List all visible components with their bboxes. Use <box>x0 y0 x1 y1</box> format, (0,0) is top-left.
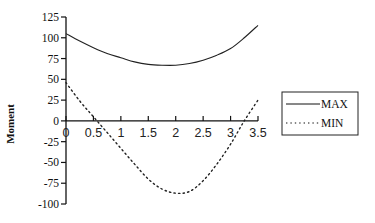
y-tick-label: 50 <box>48 73 60 85</box>
y-tick-label: 125 <box>42 11 60 23</box>
y-tick-label: -100 <box>38 198 59 210</box>
x-tick-label: 2.5 <box>194 126 211 140</box>
x-tick-label: 2 <box>172 126 179 140</box>
legend: MAX MIN <box>282 92 358 135</box>
y-tick-label: 75 <box>48 53 60 65</box>
x-tick-label: 3.5 <box>249 126 266 140</box>
x-tick-label: 0 <box>63 126 70 140</box>
moment-chart: Moment 1251007550250-25-50-75-100 00.511… <box>0 0 375 223</box>
y-tick-label: -25 <box>44 136 60 148</box>
x-tick-label: 1.5 <box>140 126 157 140</box>
y-axis-ticks: 1251007550250-25-50-75-100 <box>38 11 66 210</box>
y-axis-title: Moment <box>4 104 16 144</box>
max-series-line <box>66 25 258 65</box>
svg-text:Moment: Moment <box>4 104 16 144</box>
x-tick-label: 1 <box>117 126 124 140</box>
y-tick-label: 25 <box>48 94 60 106</box>
x-tick-label: 3 <box>227 126 234 140</box>
x-tick-label: 0.5 <box>85 126 102 140</box>
plot-series <box>66 25 258 193</box>
y-tick-label: 0 <box>53 115 59 127</box>
y-tick-label: 100 <box>42 32 60 44</box>
y-tick-label: -75 <box>44 177 60 189</box>
legend-max-label: MAX <box>321 98 349 110</box>
legend-min-label: MIN <box>321 117 344 129</box>
axes <box>66 17 258 204</box>
y-tick-label: -50 <box>44 156 60 168</box>
